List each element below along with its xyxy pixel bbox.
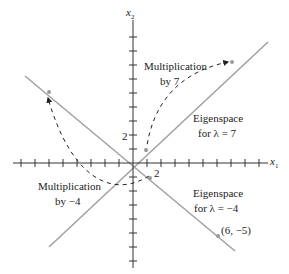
- x-tick-label-2: 2: [154, 167, 160, 179]
- x-axis: [13, 159, 268, 167]
- y-axis: [129, 20, 137, 268]
- point-7u: [230, 60, 234, 64]
- y-axis-label: x2: [126, 6, 134, 23]
- multiplication-by-neg4-arrow: [48, 98, 149, 185]
- point-label-6-neg5: (6, −5): [221, 224, 251, 236]
- point-6-neg5: [216, 234, 220, 238]
- eigenspace-line-lambda-7: [49, 42, 268, 247]
- point-u: [144, 148, 148, 152]
- y-tick-label-2: 2: [122, 130, 128, 142]
- point-v: [148, 176, 152, 180]
- point-neg4v: [47, 90, 51, 94]
- x-axis-label: x1: [270, 155, 278, 172]
